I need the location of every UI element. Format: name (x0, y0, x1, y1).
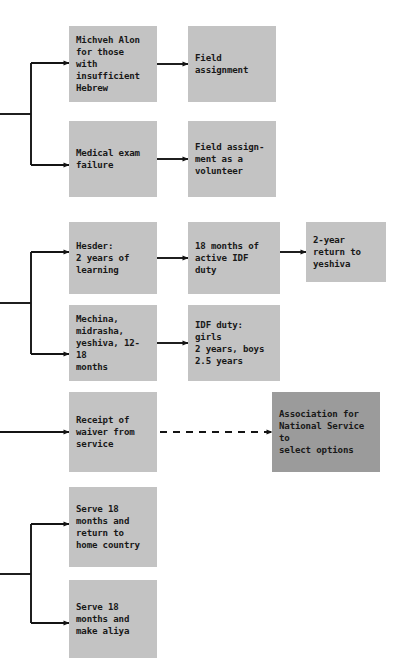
node-active-idf-duty: 18 months of active IDF duty (188, 222, 280, 294)
node-receipt-of-waiver: Receipt of waiver from service (69, 392, 157, 472)
node-field-assignment: Field assignment (188, 26, 276, 102)
node-mechina-midrasha: Mechina, midrasha, yeshiva, 12-18 months (69, 305, 157, 381)
node-idf-duty-girls-boys: IDF duty: girls 2 years, boys 2.5 years (188, 305, 280, 381)
node-michveh-alon: Michveh Alon for those with insufficient… (69, 26, 157, 102)
node-return-to-yeshiva: 2-year return to yeshiva (306, 222, 386, 282)
node-serve-make-aliya: Serve 18 months and make aliya (69, 580, 157, 658)
node-medical-exam-failure: Medical exam failure (69, 121, 157, 197)
node-field-assignment-volunteer: Field assign- ment as a volunteer (188, 121, 276, 197)
flowchart-canvas: Michveh Alon for those with insufficient… (0, 0, 399, 670)
node-hesder: Hesder: 2 years of learning (69, 222, 157, 294)
node-association-national-service: Association for National Service to sele… (272, 392, 380, 472)
edge-group-bracket-top (0, 63, 69, 165)
node-serve-return-home: Serve 18 months and return to home count… (69, 487, 157, 567)
edge-group-bracket-bottom (0, 524, 69, 623)
edge-group-bracket-middle (0, 252, 69, 354)
